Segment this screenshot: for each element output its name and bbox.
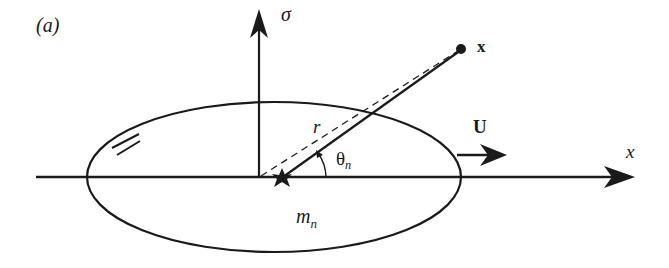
- radius-dashed-line: [261, 51, 458, 176]
- point-x-label: x: [477, 38, 486, 55]
- mass-label: mn: [296, 206, 317, 226]
- figure-canvas: (a) σ x x U r θn mn: [0, 0, 669, 268]
- point-x-marker: [456, 44, 466, 54]
- mass-label-main: m: [296, 205, 310, 227]
- velocity-label: U: [473, 117, 487, 136]
- angle-label: θn: [336, 149, 351, 168]
- source-to-point-line: [283, 50, 461, 177]
- radius-label: r: [313, 117, 320, 136]
- panel-label: (a): [36, 15, 59, 35]
- mass-label-sub: n: [310, 216, 317, 231]
- diagram-svg: [0, 0, 669, 268]
- x-axis-label: x: [626, 142, 634, 161]
- angle-label-main: θ: [336, 148, 345, 169]
- sigma-axis-label: σ: [281, 4, 291, 24]
- angle-label-sub: n: [345, 158, 351, 172]
